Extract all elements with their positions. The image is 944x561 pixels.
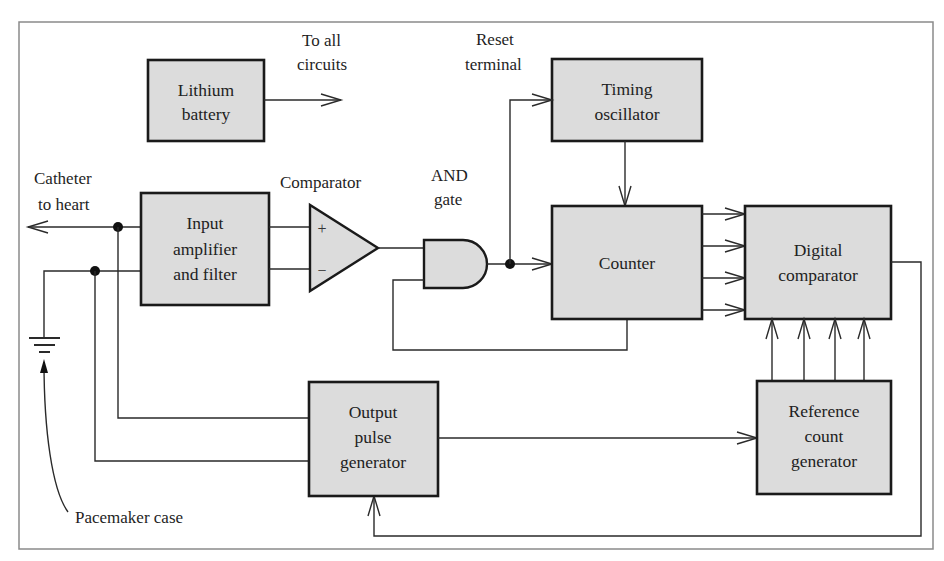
pacemaker-diagram: Lithium battery To all circuits Reset te… [0, 0, 944, 561]
and-gate-symbol [424, 240, 487, 288]
input-amp-label-line1: Input [187, 213, 224, 233]
and-gate-label-line1: AND [431, 166, 468, 185]
comparator-minus-sign: − [317, 262, 326, 279]
catheter-wire [28, 221, 141, 233]
comparator-symbol: + − [310, 205, 378, 291]
output-pulse-label-line1: Output [349, 402, 398, 422]
digital-comp-label-line1: Digital [794, 240, 843, 260]
comparator-plus-sign: + [317, 220, 326, 237]
reset-terminal-label-line2: terminal [465, 55, 522, 74]
ref-count-label-line2: count [805, 426, 844, 446]
ref-count-label-line1: Reference [789, 401, 860, 421]
catheter-label-line2: to heart [38, 195, 90, 214]
output-pulse-label-line2: pulse [355, 427, 392, 447]
battery-label-line1: Lithium [178, 80, 235, 100]
counter-label: Counter [599, 253, 656, 273]
reference-to-comparator-bus [766, 319, 870, 381]
to-all-circuits-label-line2: circuits [297, 55, 347, 74]
ref-count-label-line3: generator [791, 451, 857, 471]
counter-block: Counter [552, 206, 702, 319]
ground-icon [29, 338, 60, 352]
lithium-battery-block: Lithium battery [148, 60, 264, 141]
catheter-label-line1: Catheter [34, 169, 92, 188]
input-amp-label-line3: and filter [173, 264, 237, 284]
timing-osc-label-line1: Timing [602, 79, 653, 99]
digital-comparator-block: Digital comparator [745, 206, 891, 319]
pacemaker-case-label: Pacemaker case [75, 508, 183, 527]
digital-comp-label-line2: comparator [778, 265, 858, 285]
counter-to-comparator-bus [702, 208, 745, 316]
timing-osc-label-line2: oscillator [594, 104, 659, 124]
reference-count-generator-block: Reference count generator [757, 381, 891, 494]
comparator-label: Comparator [280, 173, 362, 192]
reset-terminal-label-line1: Reset [476, 30, 514, 49]
and-gate-label-line2: gate [434, 190, 462, 209]
output-pulse-label-line3: generator [340, 452, 406, 472]
reset-terminal-wire [510, 100, 552, 264]
ground-wire [44, 271, 141, 338]
input-amplifier-block: Input amplifier and filter [141, 193, 269, 305]
battery-label-line2: battery [182, 104, 231, 124]
to-all-circuits-label-line1: To all [302, 31, 341, 50]
timing-oscillator-block: Timing oscillator [552, 59, 702, 141]
output-pulse-generator-block: Output pulse generator [309, 382, 438, 496]
input-amp-label-line2: amplifier [173, 239, 237, 259]
arrowhead-icon [40, 359, 48, 373]
battery-output-arrow [264, 94, 341, 106]
pacemaker-case-pointer [40, 359, 68, 512]
